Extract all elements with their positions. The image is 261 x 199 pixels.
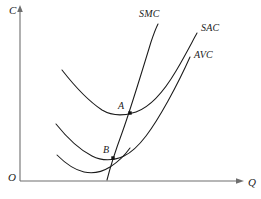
curve-avc-lower-branch [57,148,130,173]
point-marker-b [111,156,114,159]
point-marker-a [128,111,131,114]
curve-label-sac: SAC [201,22,220,33]
cost-axis-arrow-icon [17,5,23,12]
cost-curve-diagram: C Q O SMC SAC AVC A B [0,0,261,199]
point-label-a: A [117,100,125,111]
curve-label-avc: AVC [193,49,213,60]
origin-label: O [8,171,16,183]
curve-label-smc: SMC [139,8,160,19]
diagram-canvas: C Q O SMC SAC AVC A B [0,0,261,199]
quantity-axis-label: Q [248,176,256,188]
curve-sac [62,33,197,115]
cost-axis-label: C [9,4,17,16]
quantity-axis-arrow-icon [236,178,244,183]
point-label-b: B [103,144,109,155]
